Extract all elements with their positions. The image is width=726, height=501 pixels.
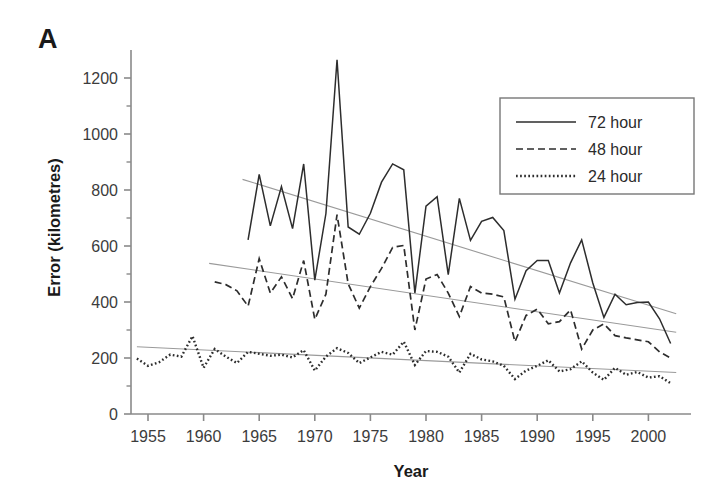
y-axis-tick-label: 400: [91, 294, 118, 311]
x-axis-tick-label: 1980: [408, 428, 444, 445]
chart-legend: 72 hour48 hour24 hour: [500, 98, 694, 194]
legend-label-24-hour: 24 hour: [588, 168, 643, 185]
y-axis-tick-label: 1000: [82, 126, 118, 143]
trendline-48-hour: [209, 263, 676, 332]
legend-label-72-hour: 72 hour: [588, 114, 643, 131]
y-axis-tick-label: 0: [109, 406, 118, 423]
x-axis-tick-label: 2000: [631, 428, 667, 445]
x-axis-label: Year: [131, 462, 691, 481]
x-axis-tick-label: 1955: [130, 428, 166, 445]
y-axis-tick-label: 800: [91, 182, 118, 199]
x-axis-tick-label: 1970: [297, 428, 333, 445]
panel-letter: A: [38, 24, 58, 55]
x-axis-tick-label: 1990: [519, 428, 555, 445]
legend-label-48-hour: 48 hour: [588, 141, 643, 158]
y-axis-tick-label: 1200: [82, 70, 118, 87]
x-axis-tick-label: 1995: [575, 428, 611, 445]
x-axis-tick-label: 1960: [186, 428, 222, 445]
chart-plot-area: 0200400600800100012001955196019651970197…: [0, 0, 726, 501]
y-axis-tick-label: 200: [91, 350, 118, 367]
figure-panel: A Error (kilometres) Year 02004006008001…: [0, 0, 726, 501]
x-axis-tick-label: 1985: [464, 428, 500, 445]
x-axis-tick-label: 1965: [241, 428, 277, 445]
y-axis-tick-label: 600: [91, 238, 118, 255]
y-axis-label: Error (kilometres): [45, 98, 64, 358]
x-axis-tick-label: 1975: [353, 428, 389, 445]
